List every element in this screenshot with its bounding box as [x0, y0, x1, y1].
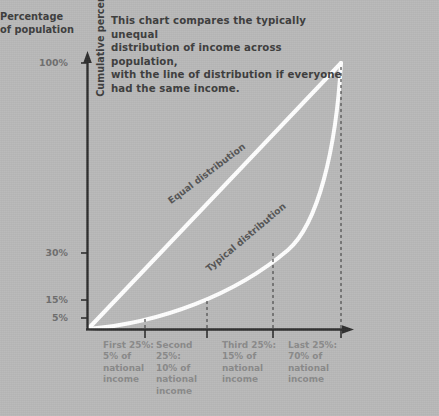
- chart-canvas: This chart compares the typically unequa…: [0, 0, 439, 416]
- y-axis-arrowhead: [83, 51, 92, 63]
- category-label-column: Second 25%: 10% of national income: [156, 340, 216, 397]
- y-tick-label: 5%: [20, 312, 68, 323]
- category-label-column: Last 25%: 70% of national income: [288, 340, 348, 386]
- x-axis-arrowhead: [342, 325, 354, 334]
- chart-description: This chart compares the typically unequa…: [111, 14, 343, 95]
- y-tick-label: 15%: [20, 294, 68, 305]
- y-axis-title: Cumulative percentage of income: [95, 0, 106, 106]
- equal-distribution-line: [88, 63, 341, 329]
- y-tick-label: 30%: [20, 247, 68, 258]
- category-label-column: First 25%: 5% of national income: [103, 340, 163, 386]
- y-tick-label: 100%: [20, 57, 68, 68]
- category-label-column: Third 25%: 15% of national income: [222, 340, 282, 386]
